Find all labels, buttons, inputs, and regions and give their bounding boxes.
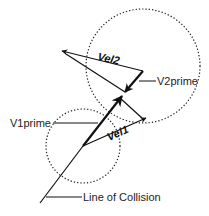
line-of-collision-label: Line of Collision	[83, 191, 161, 203]
v1-perpendicular-component	[120, 98, 142, 118]
vel2-label: Vel2	[97, 50, 121, 66]
vel1-label: Vel1	[105, 123, 130, 143]
line-of-collision	[40, 146, 83, 203]
ball-2-outline	[86, 9, 200, 123]
v2prime-label: V2prime	[157, 75, 198, 87]
collision-diagram: Vel2 V2prime V1prime Vel1 Line of Collis…	[0, 0, 209, 216]
v1prime-label: V1prime	[10, 117, 51, 129]
